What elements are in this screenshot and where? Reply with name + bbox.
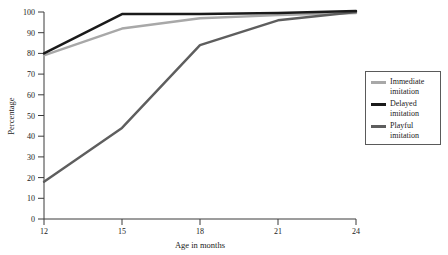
y-tick-label: 60 <box>27 91 35 100</box>
y-tick-label: 100 <box>23 8 35 17</box>
legend-label-delayed: Delayed imitation <box>390 99 419 118</box>
series-line-immediate <box>44 13 356 55</box>
y-tick-label: 90 <box>27 29 35 38</box>
y-tick-label: 70 <box>27 70 35 79</box>
x-tick-label: 18 <box>196 227 204 236</box>
x-axis-tick-labels: 12 15 18 21 24 <box>40 227 360 236</box>
x-tick-label: 21 <box>274 227 282 236</box>
y-tick-label: 20 <box>27 174 35 183</box>
y-axis-ticks <box>38 12 44 219</box>
series-line-playful <box>44 12 356 182</box>
x-tick-label: 12 <box>40 227 48 236</box>
x-tick-label: 24 <box>352 227 360 236</box>
legend-item-delayed: Delayed imitation <box>371 99 436 118</box>
x-axis-title: Age in months <box>175 240 225 250</box>
legend-swatch-delayed <box>371 103 386 106</box>
x-tick-label: 15 <box>118 227 126 236</box>
x-axis-ticks <box>44 219 356 225</box>
legend-item-playful: Playful imitation <box>371 121 436 140</box>
legend-label-immediate: Immediate imitation <box>390 77 424 96</box>
chart-figure: 0 10 20 30 40 50 60 70 80 90 100 12 15 1… <box>0 0 448 255</box>
y-tick-label: 80 <box>27 49 35 58</box>
legend-swatch-playful <box>371 125 386 128</box>
y-tick-label: 0 <box>31 215 35 224</box>
y-axis-title: Percentage <box>6 97 16 135</box>
y-tick-label: 30 <box>27 153 35 162</box>
legend-item-immediate: Immediate imitation <box>371 77 436 96</box>
y-tick-label: 10 <box>27 194 35 203</box>
y-axis-tick-labels: 0 10 20 30 40 50 60 70 80 90 100 <box>23 8 35 224</box>
legend-swatch-immediate <box>371 81 386 84</box>
y-tick-label: 50 <box>27 112 35 121</box>
chart-legend: Immediate imitation Delayed imitation Pl… <box>365 71 441 145</box>
y-tick-label: 40 <box>27 132 35 141</box>
legend-label-playful: Playful imitation <box>390 121 419 140</box>
